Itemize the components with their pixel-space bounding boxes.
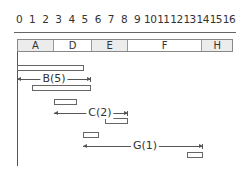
time-axis-ticks: 012345678910111213141516: [15, 13, 233, 27]
span-label: C(2): [86, 106, 113, 119]
axis-rule: [14, 32, 236, 33]
tick-label: 7: [108, 13, 114, 25]
duration-bar: [187, 152, 203, 158]
duration-bar: [32, 85, 91, 91]
tick-label: 12: [170, 13, 182, 25]
duration-bar: [54, 99, 77, 105]
arrow-head-left-icon: [17, 77, 21, 81]
tick-label: 5: [82, 13, 88, 25]
tick-label: 6: [95, 13, 101, 25]
tick-label: 3: [55, 13, 61, 25]
span-arrow: B(5): [17, 74, 91, 84]
tick-label: 0: [16, 13, 22, 25]
tick-label: 10: [144, 13, 156, 25]
tick-label: 11: [157, 13, 169, 25]
header-cell-d: D: [54, 40, 93, 51]
duration-bar: [17, 65, 84, 71]
tick-label: 4: [68, 13, 74, 25]
arrow-end-tick: [202, 144, 203, 149]
arrow-head-left-icon: [54, 111, 58, 115]
tick-label: 9: [134, 13, 140, 25]
header-cell-h: H: [202, 40, 232, 51]
header-cell-f: F: [128, 40, 202, 51]
arrow-end-tick: [127, 111, 128, 116]
span-arrow: G(1): [83, 141, 203, 151]
span-label: G(1): [131, 139, 159, 152]
tick-label: 8: [121, 13, 127, 25]
span-label: B(5): [40, 72, 67, 85]
tick-label: 16: [223, 13, 235, 25]
span-arrow: C(2): [54, 108, 128, 118]
tick-label: 2: [42, 13, 48, 25]
header-cell-e: E: [92, 40, 128, 51]
tick-label: 14: [197, 13, 209, 25]
activity-header: ADEFH: [17, 39, 233, 52]
tick-label: 1: [29, 13, 35, 25]
duration-bar: [83, 132, 99, 138]
tick-label: 15: [210, 13, 222, 25]
header-cell-a: A: [18, 40, 54, 51]
arrow-head-left-icon: [83, 144, 87, 148]
arrow-end-tick: [90, 77, 91, 82]
tick-label: 13: [183, 13, 195, 25]
